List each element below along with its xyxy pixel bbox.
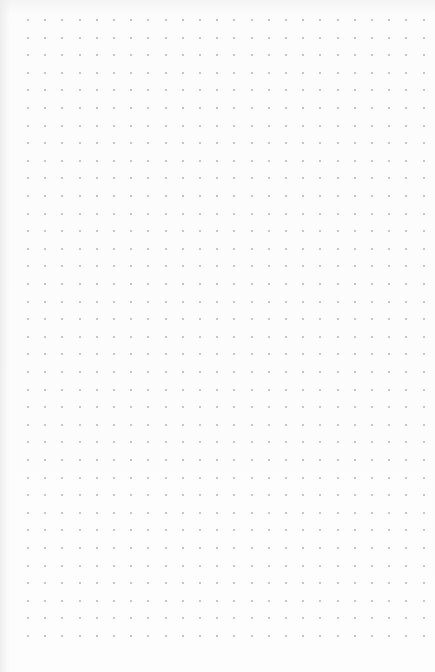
- grid-dot: [285, 371, 287, 373]
- grid-dot: [182, 494, 184, 496]
- grid-dot: [79, 600, 81, 602]
- grid-dot: [130, 459, 132, 461]
- grid-dot: [79, 459, 81, 461]
- grid-dot: [337, 142, 339, 144]
- grid-dot: [96, 371, 98, 373]
- grid-dot: [216, 107, 218, 109]
- grid-dot: [388, 441, 390, 443]
- grid-dot: [233, 353, 235, 355]
- grid-dot: [44, 565, 46, 567]
- grid-dot: [182, 582, 184, 584]
- grid-dot: [337, 565, 339, 567]
- grid-dot: [388, 512, 390, 514]
- grid-dot: [337, 125, 339, 127]
- grid-dot: [268, 635, 270, 637]
- grid-dot: [233, 459, 235, 461]
- grid-dot: [423, 565, 425, 567]
- grid-dot: [337, 213, 339, 215]
- grid-dot: [388, 635, 390, 637]
- grid-dot: [130, 353, 132, 355]
- grid-dot: [79, 582, 81, 584]
- grid-dot: [199, 160, 201, 162]
- grid-dot: [216, 617, 218, 619]
- grid-dot: [44, 37, 46, 39]
- grid-dot: [371, 213, 373, 215]
- grid-dot: [388, 529, 390, 531]
- grid-dot: [216, 547, 218, 549]
- grid-dot: [199, 230, 201, 232]
- dot-grid-page: [0, 0, 435, 672]
- grid-dot: [354, 441, 356, 443]
- grid-dot: [423, 54, 425, 56]
- grid-dot: [423, 318, 425, 320]
- grid-dot: [405, 160, 407, 162]
- grid-dot: [251, 160, 253, 162]
- grid-dot: [61, 37, 63, 39]
- grid-dot: [147, 512, 149, 514]
- grid-dot: [268, 195, 270, 197]
- grid-dot: [423, 107, 425, 109]
- grid-dot: [423, 406, 425, 408]
- grid-dot: [27, 565, 29, 567]
- grid-dot: [182, 54, 184, 56]
- grid-dot: [216, 213, 218, 215]
- grid-dot: [113, 582, 115, 584]
- grid-dot: [199, 512, 201, 514]
- grid-dot: [354, 213, 356, 215]
- grid-dot: [285, 125, 287, 127]
- grid-dot: [165, 160, 167, 162]
- grid-dot: [354, 459, 356, 461]
- grid-dot: [251, 459, 253, 461]
- grid-dot: [199, 424, 201, 426]
- grid-dot: [371, 195, 373, 197]
- grid-dot: [199, 318, 201, 320]
- grid-dot: [216, 195, 218, 197]
- grid-dot: [251, 565, 253, 567]
- grid-dot: [285, 230, 287, 232]
- grid-dot: [423, 353, 425, 355]
- grid-dot: [44, 142, 46, 144]
- grid-dot: [113, 37, 115, 39]
- grid-dot: [337, 177, 339, 179]
- grid-dot: [27, 600, 29, 602]
- grid-dot: [302, 177, 304, 179]
- grid-dot: [61, 424, 63, 426]
- grid-dot: [147, 301, 149, 303]
- grid-dot: [233, 600, 235, 602]
- grid-dot: [216, 265, 218, 267]
- grid-dot: [147, 213, 149, 215]
- grid-dot: [79, 635, 81, 637]
- grid-dot: [61, 142, 63, 144]
- grid-dot: [302, 72, 304, 74]
- grid-dot: [405, 371, 407, 373]
- grid-dot: [199, 582, 201, 584]
- grid-dot: [182, 72, 184, 74]
- grid-dot: [337, 459, 339, 461]
- grid-dot: [371, 54, 373, 56]
- grid-dot: [113, 230, 115, 232]
- grid-dot: [96, 195, 98, 197]
- grid-dot: [337, 248, 339, 250]
- grid-dot: [182, 318, 184, 320]
- grid-dot: [182, 371, 184, 373]
- grid-dot: [27, 406, 29, 408]
- grid-dot: [147, 600, 149, 602]
- grid-dot: [371, 547, 373, 549]
- grid-dot: [61, 248, 63, 250]
- grid-dot: [79, 353, 81, 355]
- grid-dot: [27, 477, 29, 479]
- grid-dot: [405, 177, 407, 179]
- grid-dot: [405, 512, 407, 514]
- grid-dot: [268, 494, 270, 496]
- grid-dot: [165, 336, 167, 338]
- grid-dot: [182, 512, 184, 514]
- grid-dot: [182, 195, 184, 197]
- grid-dot: [79, 160, 81, 162]
- grid-dot: [251, 125, 253, 127]
- grid-dot: [233, 230, 235, 232]
- grid-dot: [405, 406, 407, 408]
- grid-dot: [302, 336, 304, 338]
- grid-dot: [371, 371, 373, 373]
- grid-dot: [79, 547, 81, 549]
- grid-dot: [182, 142, 184, 144]
